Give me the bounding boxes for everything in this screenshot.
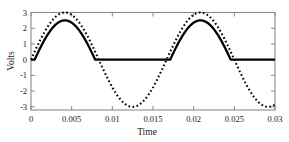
- x-axis-title: Time: [137, 127, 157, 137]
- x-tick-label: 0.015: [143, 114, 162, 124]
- y-axis-title: Volts: [6, 51, 16, 70]
- y-tick-label: 3: [14, 8, 27, 18]
- y-tick-label: -2: [14, 86, 27, 96]
- x-tick-label: 0: [29, 114, 33, 124]
- y-tick-label: 2: [14, 23, 27, 33]
- x-tick-marks: [31, 13, 275, 111]
- x-tick-label: 0.025: [225, 114, 244, 124]
- x-tick-label: 0.02: [186, 114, 201, 124]
- x-tick-label: 0.01: [105, 114, 120, 124]
- y-tick-label: -1: [14, 70, 27, 80]
- y-tick-label: -3: [14, 102, 27, 112]
- x-tick-label: 0.03: [268, 114, 283, 124]
- plot-frame: [31, 13, 275, 111]
- figure: 00.0050.010.0150.020.0250.03 -3-2-10123 …: [0, 0, 289, 142]
- x-tick-label: 0.005: [62, 114, 81, 124]
- y-tick-label: 1: [14, 39, 27, 49]
- y-tick-label: 0: [14, 55, 27, 65]
- series-rectified-output: [31, 20, 275, 59]
